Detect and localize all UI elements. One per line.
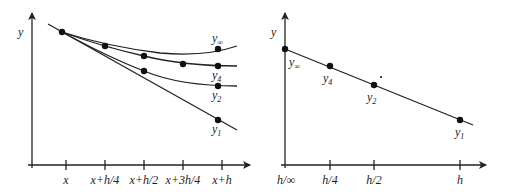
y2-point xyxy=(371,82,377,88)
left-chart: y x x+h/4 x+h/2 x+3h/4 x+h y∞ y4 y xyxy=(17,13,250,187)
right-tick-label: h/4 xyxy=(322,173,337,187)
start-point xyxy=(59,29,65,35)
right-chart: y h/∞ h/4 h/2 h y∞ y4 y2 y1 xyxy=(270,13,486,187)
y4-point xyxy=(327,63,333,69)
right-tick-label: h xyxy=(457,173,463,187)
extrapolation-diagram: y x x+h/4 x+h/2 x+3h/4 x+h y∞ y4 y xyxy=(0,0,505,196)
left-tick-label: x+h/2 xyxy=(129,173,159,187)
point xyxy=(141,53,147,59)
y-inf-point xyxy=(282,46,288,52)
stray-dot xyxy=(380,76,382,78)
point xyxy=(102,43,108,49)
right-y-axis-label: y xyxy=(270,25,277,39)
y1-label: y1 xyxy=(211,122,221,138)
y1-label: y1 xyxy=(454,125,464,141)
y-inf-curve xyxy=(62,32,237,54)
left-tick-label: x+h xyxy=(211,173,231,187)
y4-label: y4 xyxy=(322,71,332,87)
left-y-axis-label: y xyxy=(17,25,24,39)
point xyxy=(180,61,186,67)
y4-curve xyxy=(62,32,237,66)
y4-label: y4 xyxy=(211,68,221,84)
y-inf-label: y∞ xyxy=(211,31,223,47)
left-tick-label: x+h/4 xyxy=(90,173,120,187)
right-tick-label: h/2 xyxy=(366,173,381,187)
left-tick-label: x+3h/4 xyxy=(165,173,201,187)
y2-label: y2 xyxy=(211,88,221,104)
extrapolation-line xyxy=(285,49,473,125)
right-tick-label: h/∞ xyxy=(277,173,295,187)
point xyxy=(141,68,147,74)
y2-label: y2 xyxy=(366,90,376,106)
left-tick-label: x xyxy=(62,173,69,187)
y-inf-label: y∞ xyxy=(288,55,300,71)
y1-point xyxy=(457,117,463,123)
